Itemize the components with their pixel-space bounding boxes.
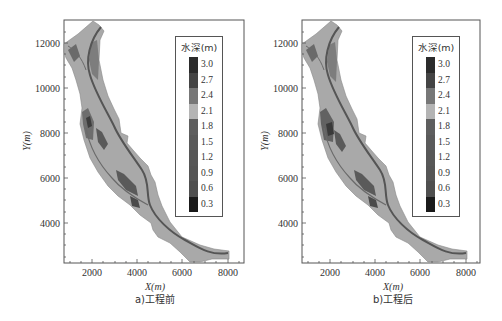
legend-label: 1.5 xyxy=(438,137,450,147)
y-tick-label: 12000 xyxy=(35,38,60,49)
x-tick-label: 6000 xyxy=(410,267,430,278)
y-tick-label: 8000 xyxy=(40,128,60,139)
legend-label: 1.5 xyxy=(201,137,213,147)
x-tick-label: 2000 xyxy=(82,267,102,278)
y-tick-label: 4000 xyxy=(278,218,298,229)
x-axis xyxy=(70,259,239,263)
color-swatch xyxy=(189,150,198,166)
x-tick-label: 4000 xyxy=(127,267,147,278)
y-tick-label: 8000 xyxy=(278,128,298,139)
x-tick-label: 4000 xyxy=(365,267,385,278)
legend-title: 水深(m) xyxy=(176,40,222,54)
color-bar xyxy=(426,57,435,212)
y-axis-label: Y(m) xyxy=(21,131,33,151)
x-tick-label: 8000 xyxy=(456,267,476,278)
color-swatch xyxy=(426,57,435,73)
color-swatch xyxy=(426,135,435,151)
panel-before: 12000 10000 8000 6000 4000 2000 4000 600… xyxy=(0,0,251,321)
color-bar xyxy=(189,57,198,212)
y-tick-label: 12000 xyxy=(273,38,298,49)
legend-title: 水深(m) xyxy=(413,40,459,54)
legend-label: 1.2 xyxy=(438,152,450,162)
color-swatch xyxy=(426,150,435,166)
legend-label: 0.3 xyxy=(201,199,213,209)
legend-label: 1.2 xyxy=(201,152,213,162)
legend-label: 0.6 xyxy=(201,183,213,193)
color-swatch xyxy=(189,88,198,104)
legend-label: 2.1 xyxy=(438,106,450,116)
color-swatch xyxy=(189,104,198,120)
legend: 水深(m) 3.0 2.7 2.4 2.1 1.8 1.5 1.2 0.9 0.… xyxy=(412,36,460,217)
color-swatch xyxy=(426,88,435,104)
legend-label: 1.8 xyxy=(201,121,213,131)
color-swatch xyxy=(189,135,198,151)
x-tick-label: 2000 xyxy=(320,267,340,278)
y-tick-label: 6000 xyxy=(278,173,298,184)
legend-label: 0.6 xyxy=(438,183,450,193)
figure-caption: a)工程前 xyxy=(95,291,215,306)
color-swatch xyxy=(426,166,435,182)
color-swatch xyxy=(189,73,198,89)
color-swatch xyxy=(426,104,435,120)
legend-label: 0.9 xyxy=(201,168,213,178)
legend-label: 0.9 xyxy=(438,168,450,178)
y-axis xyxy=(302,32,306,257)
y-tick-label: 4000 xyxy=(40,218,60,229)
panel-after: 12000 10000 8000 6000 4000 2000 4000 600… xyxy=(238,0,489,321)
legend-label: 2.4 xyxy=(201,90,213,100)
color-swatch xyxy=(426,119,435,135)
y-tick-label: 6000 xyxy=(40,173,60,184)
legend-label: 2.4 xyxy=(438,90,450,100)
legend-label: 3.0 xyxy=(201,59,213,69)
legend-label: 2.7 xyxy=(201,75,213,85)
y-tick-label: 10000 xyxy=(273,83,298,94)
y-axis-label: Y(m) xyxy=(259,131,271,151)
legend-label: 0.3 xyxy=(438,199,450,209)
color-swatch xyxy=(426,197,435,213)
legend: 水深(m) 3.0 2.7 2.4 2.1 1.8 1.5 1.2 0.9 0.… xyxy=(175,36,223,217)
legend-label: 3.0 xyxy=(438,59,450,69)
color-swatch xyxy=(189,57,198,73)
x-tick-label: 8000 xyxy=(218,267,238,278)
legend-label: 2.1 xyxy=(201,106,213,116)
legend-label: 2.7 xyxy=(438,75,450,85)
y-tick-label: 10000 xyxy=(35,83,60,94)
color-swatch xyxy=(189,166,198,182)
color-swatch xyxy=(189,119,198,135)
x-tick-label: 6000 xyxy=(172,267,192,278)
color-swatch xyxy=(189,197,198,213)
figure-caption: b)工程后 xyxy=(333,291,453,306)
color-swatch xyxy=(189,181,198,197)
y-axis xyxy=(64,32,68,257)
color-swatch xyxy=(426,181,435,197)
color-swatch xyxy=(426,73,435,89)
x-axis xyxy=(308,259,477,263)
legend-label: 1.8 xyxy=(438,121,450,131)
